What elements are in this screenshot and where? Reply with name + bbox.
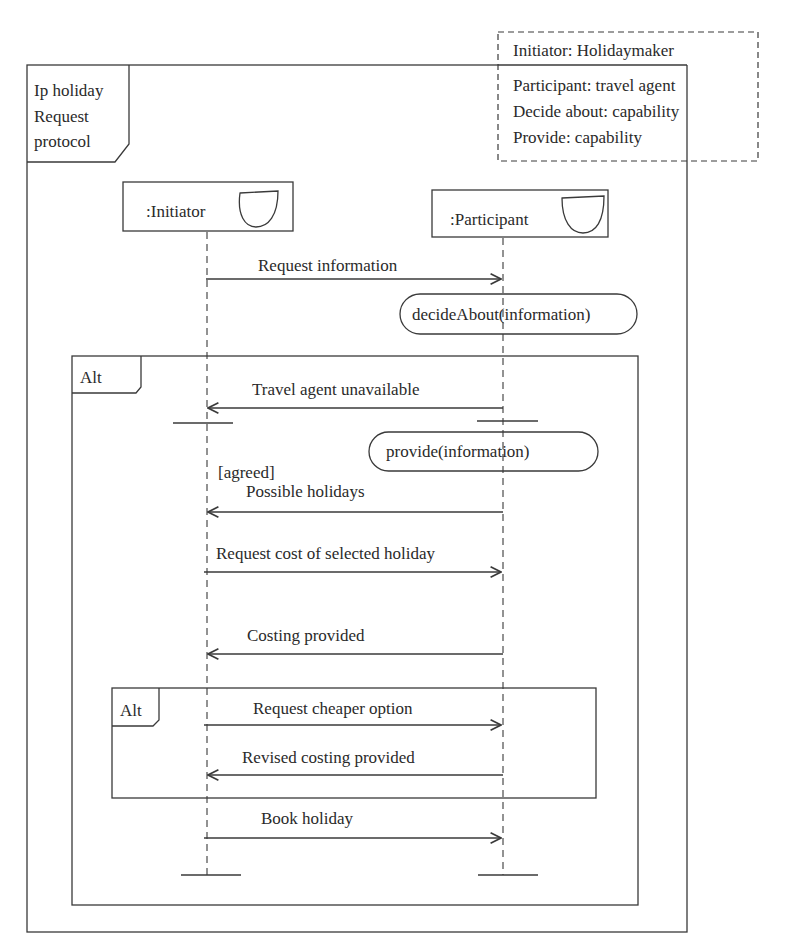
note-line-1: Initiator: Holidaymaker (513, 41, 674, 60)
svg-text:decideAbout(information): decideAbout(information) (412, 305, 590, 324)
alt-label: Alt (80, 368, 102, 387)
svg-text:Request cheaper option: Request cheaper option (253, 699, 413, 718)
svg-text:Costing provided: Costing provided (247, 626, 365, 645)
entity-icon (239, 191, 278, 227)
entity-icon (562, 196, 604, 233)
message-request-information: Request information (206, 256, 501, 279)
lifeline-initiator: :Initiator (123, 182, 293, 875)
message-request-cheaper-option: Request cheaper option (204, 699, 501, 725)
svg-text:Possible holidays: Possible holidays (246, 482, 365, 501)
message-travel-agent-unavailable: Travel agent unavailable (173, 380, 538, 423)
svg-text:Book holiday: Book holiday (261, 809, 354, 828)
guard-agreed: [agreed] (218, 463, 275, 482)
frame-title-line-2: Request (34, 107, 89, 126)
svg-text:Revised costing provided: Revised costing provided (242, 748, 415, 767)
lifeline-participant-label: :Participant (450, 210, 529, 229)
frame-title-line-3: protocol (34, 132, 91, 151)
lifeline-participant: :Participant (432, 190, 608, 875)
svg-text:Request cost of selected holid: Request cost of selected holiday (216, 544, 436, 563)
action-decide-about: decideAbout(information) (400, 294, 637, 334)
message-request-cost: Request cost of selected holiday (204, 544, 501, 572)
message-costing-provided: Costing provided (208, 626, 503, 654)
svg-text:Travel agent unavailable: Travel agent unavailable (252, 380, 419, 399)
frame-title-line-1: Ip holiday (34, 81, 104, 100)
sequence-diagram: Ip holiday Request protocol Initiator: H… (0, 0, 785, 951)
lifeline-initiator-label: :Initiator (146, 202, 206, 221)
note-line-3: Decide about: capability (513, 102, 680, 121)
action-provide: provide(information) (369, 432, 598, 471)
note-line-4: Provide: capability (513, 128, 642, 147)
svg-text:Request information: Request information (258, 256, 398, 275)
note-line-2: Participant: travel agent (513, 76, 676, 95)
svg-text:provide(information): provide(information) (386, 442, 530, 461)
alt-label-inner: Alt (120, 701, 142, 720)
message-revised-costing: Revised costing provided (208, 748, 503, 775)
message-book-holiday: Book holiday (204, 809, 501, 838)
role-binding-note: Initiator: Holidaymaker Participant: tra… (498, 32, 758, 161)
